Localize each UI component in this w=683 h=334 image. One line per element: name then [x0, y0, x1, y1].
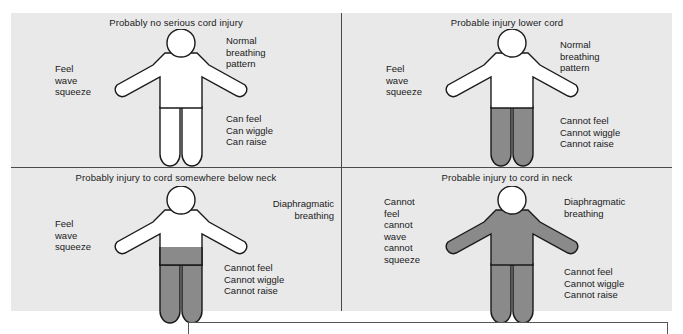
- diagram-plate: Probably no serious cord injury Feel wav…: [11, 13, 672, 311]
- torso-and-arms: [446, 210, 577, 265]
- sensory-label: Feel wave squeeze: [55, 63, 91, 98]
- head: [167, 29, 195, 57]
- head: [167, 186, 195, 214]
- sensory-label: Feel wave squeeze: [55, 218, 91, 253]
- leg-right: [513, 107, 533, 166]
- leg-left: [491, 107, 511, 166]
- body-figure: [97, 186, 257, 324]
- leg-left: [160, 264, 180, 323]
- quadrant-no-serious-cord-injury: Probably no serious cord injury Feel wav…: [11, 13, 341, 167]
- body-figure: [97, 29, 257, 167]
- quadrant-title: Probable injury to cord in neck: [342, 172, 672, 183]
- leg-left: [160, 107, 180, 166]
- leg-right: [182, 264, 202, 323]
- body-figure: [428, 29, 588, 167]
- sensory-label: Cannot feel cannot wave cannot squeeze: [384, 196, 420, 266]
- head: [498, 186, 526, 214]
- body-figure: [428, 186, 588, 324]
- torso-and-arms: [446, 53, 577, 108]
- torso-and-arms: [115, 53, 246, 108]
- quadrant-injury-lower-cord: Probable injury lower cord Feel wave squ…: [342, 13, 672, 167]
- leg-right: [513, 264, 533, 323]
- head: [498, 29, 526, 57]
- bottom-cutoff-box: [188, 322, 668, 334]
- leg-left: [491, 264, 511, 323]
- leg-right: [182, 107, 202, 166]
- quadrant-injury-cord-in-neck: Probable injury to cord in neck Cannot f…: [342, 168, 672, 311]
- quadrant-injury-below-neck: Probably injury to cord somewhere below …: [11, 168, 341, 311]
- quadrant-title: Probable injury lower cord: [342, 17, 672, 28]
- quadrant-title: Probably no serious cord injury: [11, 17, 341, 28]
- sensory-label: Feel wave squeeze: [386, 63, 422, 98]
- lower-torso-shading: [161, 247, 202, 265]
- quadrant-title: Probably injury to cord somewhere below …: [11, 172, 341, 183]
